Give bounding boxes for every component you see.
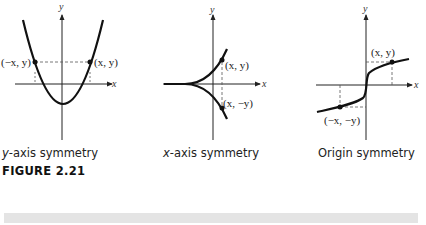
point-lower: [338, 105, 343, 110]
caption-origin-symmetry: Origin symmetry: [318, 146, 415, 160]
upper-branch-curve: [164, 49, 227, 84]
panel-origin-symmetry: x y (x, y) (−x, −y): [316, 3, 419, 140]
y-axis-label: y: [362, 3, 368, 14]
symmetry-figure: x y (−x, y) (x, y) x y (x, y) (x, −y) x …: [0, 0, 426, 225]
point-label-left: (−x, y): [1, 56, 31, 69]
y-axis-label: y: [58, 1, 64, 12]
caption-text: Origin symmetry: [318, 146, 415, 160]
grey-band-divider: [4, 213, 418, 223]
x-axis-label: x: [261, 78, 267, 89]
point-left: [33, 60, 38, 65]
x-axis-label: x: [413, 79, 419, 90]
panel-y-axis-symmetry: x y (−x, y) (x, y): [1, 1, 118, 140]
point-label-right: (x, y): [94, 56, 118, 69]
caption-variable: y: [2, 146, 9, 160]
caption-variable: x: [163, 146, 170, 160]
panel-x-axis-symmetry: x y (x, y) (x, −y): [163, 4, 267, 140]
point-right: [88, 60, 93, 65]
point-label-lower: (x, −y): [223, 97, 253, 110]
figure-label: FIGURE 2.21: [2, 164, 85, 178]
caption-text: -axis symmetry: [170, 146, 259, 160]
point-upper: [220, 58, 225, 63]
x-axis-label: x: [111, 78, 117, 89]
caption-text: -axis symmetry: [9, 146, 98, 160]
point-upper: [390, 60, 395, 65]
y-axis-label: y: [209, 4, 215, 15]
caption-x-axis-symmetry: x-axis symmetry: [163, 146, 259, 160]
point-label-upper: (x, y): [225, 59, 249, 72]
lower-branch-curve: [185, 84, 227, 119]
caption-y-axis-symmetry: y-axis symmetry: [2, 146, 98, 160]
point-label-upper: (x, y): [371, 46, 395, 59]
point-label-lower: (−x, −y): [324, 114, 361, 127]
